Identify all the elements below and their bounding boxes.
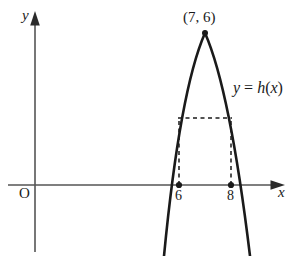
function-close-paren: )	[278, 79, 283, 96]
x-tick-label-8: 8	[227, 189, 234, 203]
origin-label: O	[19, 186, 30, 201]
coordinate-plane-svg	[0, 0, 297, 256]
x-axis-label: x	[278, 185, 285, 200]
graph-figure: y x O (7, 6) y = h(x) 6 8	[0, 0, 297, 256]
y-axis-label: y	[22, 8, 29, 23]
function-h-symbol: h	[257, 79, 265, 96]
vertex-coordinate-label: (7, 6)	[183, 10, 216, 25]
x-tick-label-6: 6	[175, 189, 182, 203]
vertex-point-marker	[202, 30, 208, 36]
function-equals-sign: =	[240, 79, 257, 96]
function-variable-symbol: x	[270, 79, 277, 96]
parabola-curve	[164, 33, 250, 256]
y-axis-arrowhead	[30, 11, 40, 26]
function-equation-label: y = h(x)	[233, 80, 283, 96]
